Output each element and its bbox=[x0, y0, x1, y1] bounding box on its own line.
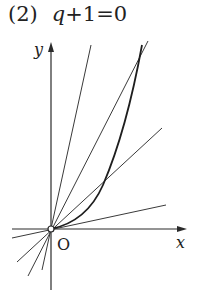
curve bbox=[51, 45, 142, 229]
x-axis-arrow-icon bbox=[177, 226, 187, 232]
y-axis-label: y bbox=[33, 40, 44, 59]
origin-point bbox=[48, 226, 54, 232]
origin-label: O bbox=[57, 235, 70, 254]
shallow-line bbox=[12, 205, 166, 238]
y-axis-arrow-icon bbox=[48, 42, 54, 52]
chord-line-mid bbox=[17, 128, 162, 262]
chord-line-upper bbox=[28, 41, 148, 276]
x-axis-label: x bbox=[176, 233, 185, 252]
graph: y x O bbox=[0, 0, 201, 296]
